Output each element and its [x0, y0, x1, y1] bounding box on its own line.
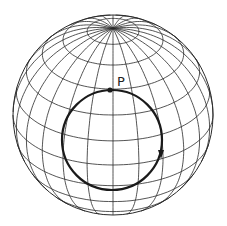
point-p-label: P [117, 74, 125, 89]
globe-diagram: P [0, 0, 227, 226]
point-p-marker [107, 87, 112, 92]
circular-path [62, 90, 162, 190]
sphere-grid [13, 15, 213, 215]
meridian-line [16, 28, 113, 162]
